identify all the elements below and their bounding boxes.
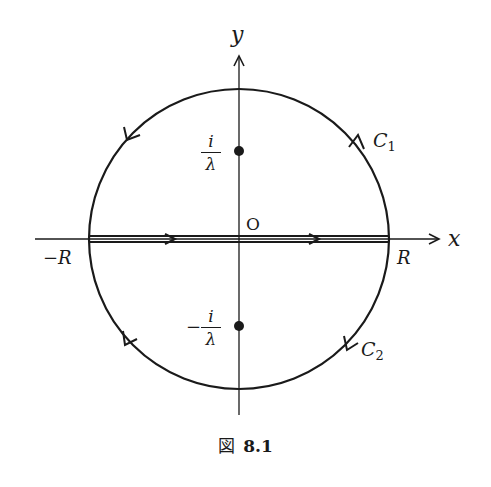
pole-lower bbox=[234, 321, 244, 331]
c1-subscript: 1 bbox=[388, 139, 396, 154]
c1-label: C1 bbox=[373, 129, 396, 154]
c2-label: C2 bbox=[361, 338, 384, 363]
upper-pole-numerator: i bbox=[208, 132, 213, 150]
upper-pole-label: i λ bbox=[201, 132, 221, 173]
minus-r-label: −R bbox=[43, 247, 72, 268]
c2-subscript: 2 bbox=[376, 348, 384, 363]
x-axis-label: x bbox=[448, 226, 460, 251]
caption-prefix: 図 bbox=[218, 436, 235, 456]
caption-number: 8.1 bbox=[243, 436, 273, 456]
y-axis-label: y bbox=[231, 22, 243, 47]
c1-name: C bbox=[373, 129, 388, 151]
origin-label: O bbox=[246, 214, 260, 234]
lower-pole-denominator: λ bbox=[206, 330, 217, 348]
contour-diagram bbox=[0, 0, 491, 487]
lower-pole-sign: − bbox=[186, 316, 201, 337]
fraction-bar bbox=[201, 152, 221, 153]
pole-upper bbox=[234, 146, 244, 156]
c2-name: C bbox=[361, 338, 376, 360]
figure-caption: 図8.1 bbox=[0, 432, 491, 457]
r-label: R bbox=[397, 247, 411, 268]
lower-pole-numerator: i bbox=[208, 307, 213, 325]
fraction-bar bbox=[201, 327, 221, 328]
lower-pole-label: i λ bbox=[201, 307, 221, 348]
upper-pole-denominator: λ bbox=[206, 155, 217, 173]
